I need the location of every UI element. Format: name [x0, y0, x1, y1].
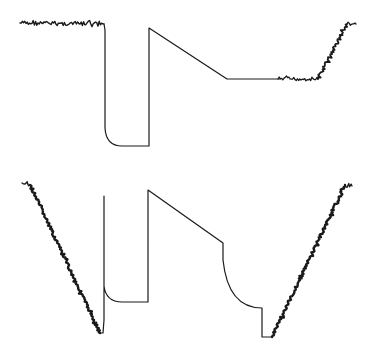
top-trace-segment: [347, 22, 356, 25]
bottom-waveform-trace: [22, 182, 352, 337]
waveform-diagram: [0, 0, 372, 355]
top-trace-segment: [20, 21, 104, 27]
bottom-trace-segment: [100, 190, 272, 337]
bottom-trace-segment: [272, 185, 345, 337]
top-waveform-trace: [20, 21, 356, 147]
top-trace-segment: [104, 24, 280, 146]
bottom-trace-segment: [22, 182, 30, 186]
bottom-trace-segment: [30, 185, 100, 333]
top-trace-segment: [318, 24, 348, 79]
top-trace-segment: [278, 76, 318, 81]
